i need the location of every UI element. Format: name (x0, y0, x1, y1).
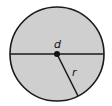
circle-diagram: d r (0, 0, 112, 106)
center-point (54, 51, 60, 57)
diameter-label: d (54, 38, 62, 51)
